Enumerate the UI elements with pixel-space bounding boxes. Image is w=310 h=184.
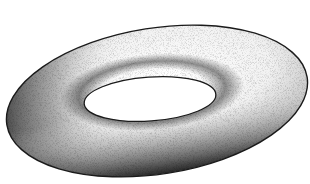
- torus-drawing: [0, 0, 310, 184]
- torus-illustration: Stippled illustration of a torus: [0, 0, 310, 184]
